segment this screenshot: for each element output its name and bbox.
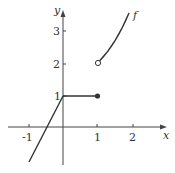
y-tick-label-2: 2 bbox=[53, 58, 60, 71]
x-tick-label-1: 1 bbox=[94, 131, 101, 144]
y-tick-label-3: 3 bbox=[53, 25, 60, 38]
x-axis-label: x bbox=[163, 129, 170, 142]
graph-of-f: -1 1 2 1 2 3 x y f bbox=[0, 0, 175, 173]
open-endpoint-circle bbox=[95, 60, 100, 65]
x-tick-label-neg1: -1 bbox=[22, 131, 33, 144]
closed-endpoint-dot bbox=[95, 93, 100, 98]
linear-piece bbox=[29, 96, 63, 162]
y-axis-arrow-icon bbox=[61, 10, 66, 17]
function-label: f bbox=[132, 9, 139, 22]
x-tick-label-2: 2 bbox=[129, 131, 136, 144]
curve-piece bbox=[100, 13, 130, 61]
y-axis-label: y bbox=[53, 4, 61, 17]
